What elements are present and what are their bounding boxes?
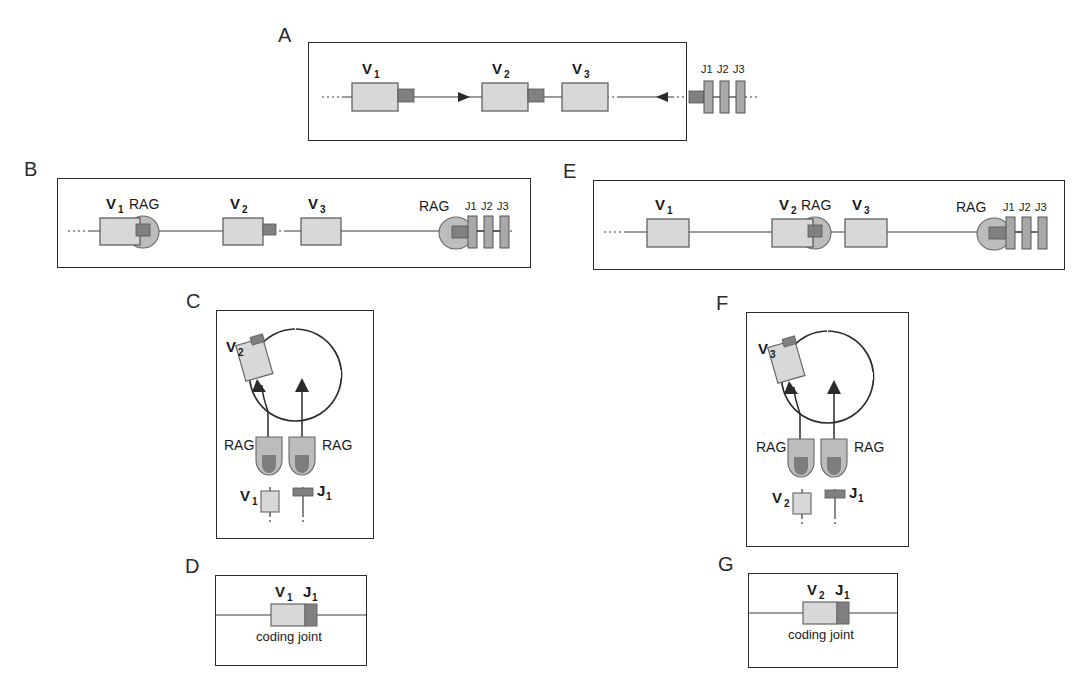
panel-label-e: E <box>563 160 576 183</box>
panel-label-f: F <box>716 292 728 315</box>
panel-label-c: C <box>186 290 200 313</box>
panel-b-frame <box>57 178 531 268</box>
panel-label-d: D <box>185 555 199 578</box>
panel-c-frame <box>216 310 374 539</box>
j1-label: J1 <box>701 63 713 75</box>
j2-label: J2 <box>717 63 729 75</box>
panel-d-frame <box>215 575 367 666</box>
panel-f-frame <box>746 312 909 547</box>
j-segment-box <box>704 81 713 113</box>
panel-e-frame <box>593 180 1065 270</box>
panel-label-g: G <box>718 553 734 576</box>
panel-label-a: A <box>278 24 291 47</box>
j-segment-box <box>736 81 745 113</box>
panel-g-frame <box>748 573 898 668</box>
panel-label-b: B <box>24 158 37 181</box>
j-rss-signal <box>689 91 704 103</box>
j3-label: J3 <box>733 63 745 75</box>
panel-a-frame <box>308 42 687 141</box>
j-segment-box <box>720 81 729 113</box>
